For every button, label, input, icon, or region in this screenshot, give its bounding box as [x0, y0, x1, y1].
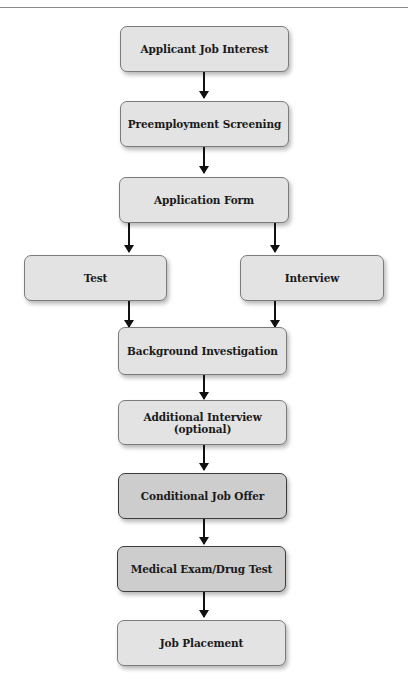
- node-additional-interview: Additional Interview (optional): [118, 400, 287, 445]
- arrow-application-to-interview: [274, 223, 276, 252]
- node-label: Test: [84, 272, 108, 284]
- arrow-interest-to-screening: [203, 72, 205, 98]
- node-application-form: Application Form: [119, 177, 289, 223]
- node-preemployment-screening: Preemployment Screening: [120, 101, 289, 147]
- node-label: Conditional Job Offer: [141, 490, 265, 502]
- arrow-additional-to-offer: [203, 445, 205, 470]
- node-medical-exam-drug-test: Medical Exam/Drug Test: [117, 546, 286, 592]
- node-label: Medical Exam/Drug Test: [131, 563, 273, 575]
- node-label: Interview: [285, 272, 340, 284]
- node-label: Preemployment Screening: [128, 118, 281, 130]
- arrow-screening-to-application: [203, 147, 205, 173]
- arrow-interview-to-background: [274, 301, 276, 327]
- node-label: Applicant Job Interest: [141, 43, 269, 55]
- node-test: Test: [24, 255, 167, 301]
- node-job-placement: Job Placement: [117, 620, 286, 666]
- node-label: Additional Interview (optional): [119, 411, 286, 435]
- node-conditional-job-offer: Conditional Job Offer: [118, 473, 287, 519]
- node-label: Job Placement: [160, 637, 244, 649]
- node-label: Background Investigation: [127, 345, 278, 357]
- top-divider: [0, 7, 408, 8]
- node-background-investigation: Background Investigation: [118, 327, 287, 375]
- node-label: Application Form: [154, 194, 254, 206]
- node-interview: Interview: [240, 255, 384, 301]
- arrow-background-to-additional: [203, 375, 205, 399]
- arrow-test-to-background: [128, 301, 130, 327]
- arrow-offer-to-medical: [203, 519, 205, 544]
- node-applicant-job-interest: Applicant Job Interest: [120, 26, 289, 72]
- arrow-application-to-test: [128, 223, 130, 252]
- arrow-medical-to-placement: [203, 592, 205, 617]
